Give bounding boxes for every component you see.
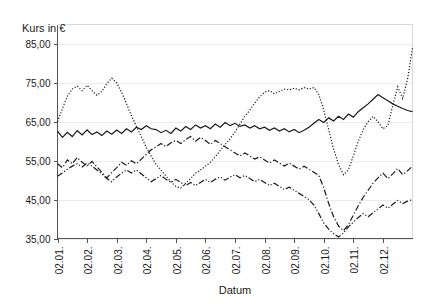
y-tick-label: 65,00 [25, 117, 50, 128]
x-tick-label: 02.11. [349, 247, 360, 274]
line-chart: 35,0045,0055,0065,0075,0085,00 02.01.02.… [0, 0, 426, 304]
x-tick-label: 02.08. [261, 247, 272, 275]
x-tick-label: 02.12. [379, 247, 390, 275]
y-tick-label: 35,00 [25, 234, 50, 245]
x-tick-label: 02.05. [172, 247, 183, 275]
y-axis-title: Kurs in € [22, 22, 65, 34]
x-tick-label: 02.04. [142, 247, 153, 275]
y-tick-label: 85,00 [25, 39, 50, 50]
x-tick-label: 02.03. [113, 247, 124, 275]
chart-container: 35,0045,0055,0065,0075,0085,00 02.01.02.… [0, 0, 426, 304]
x-tick-label: 02.07. [231, 247, 242, 275]
y-tick-label: 55,00 [25, 156, 50, 167]
x-tick-label: 02.06. [201, 247, 212, 275]
x-axis-title: Datum [219, 284, 251, 296]
x-tick-label: 02.10. [320, 247, 331, 275]
x-tick-label: 02.01. [54, 247, 65, 275]
x-tick-label: 02.02. [83, 247, 94, 275]
y-tick-label: 45,00 [25, 195, 50, 206]
x-tick-label: 02.09. [290, 247, 301, 275]
y-tick-label: 75,00 [25, 78, 50, 89]
